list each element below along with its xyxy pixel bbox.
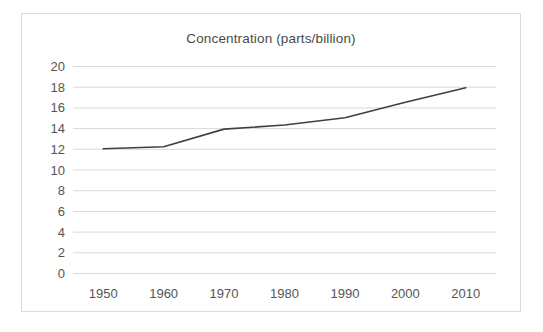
y-axis-tick-label: 18 — [29, 81, 65, 94]
x-axis-tick-label: 2000 — [375, 287, 435, 300]
y-axis-tick-label: 12 — [29, 143, 65, 156]
x-axis-tick-label: 1950 — [73, 287, 133, 300]
y-axis-tick-label: 0 — [29, 267, 65, 280]
chart-container: Concentration (parts/billion) 0246810121… — [21, 13, 521, 312]
x-axis-tick-label: 1990 — [315, 287, 375, 300]
y-axis-tick-label: 16 — [29, 101, 65, 114]
y-axis-tick-label: 20 — [29, 60, 65, 73]
x-axis-tick-label: 1960 — [134, 287, 194, 300]
x-axis-tick-label: 1970 — [194, 287, 254, 300]
y-axis-tick-label: 2 — [29, 246, 65, 259]
gridlines-group — [73, 67, 496, 274]
y-axis-tick-label: 8 — [29, 184, 65, 197]
x-axis-tick-label: 1980 — [255, 287, 315, 300]
chart-plot-area — [22, 14, 522, 313]
y-axis-tick-label: 14 — [29, 122, 65, 135]
y-axis-tick-label: 6 — [29, 205, 65, 218]
y-axis-tick-label: 10 — [29, 164, 65, 177]
x-axis-tick-label: 2010 — [436, 287, 496, 300]
data-series-line — [103, 88, 466, 149]
y-axis-tick-label: 4 — [29, 226, 65, 239]
